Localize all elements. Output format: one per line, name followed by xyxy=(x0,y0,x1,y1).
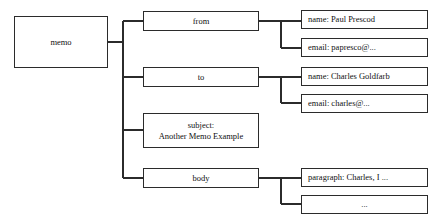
node-from-email-label: email: papresco@... xyxy=(308,42,376,53)
node-body-paragraph-label: paragraph: Charles, I ... xyxy=(308,172,388,183)
node-body-label: body xyxy=(193,173,210,184)
node-memo-label: memo xyxy=(50,37,71,48)
node-from-label: from xyxy=(193,16,210,27)
node-body-paragraph[interactable]: paragraph: Charles, I ... xyxy=(301,168,428,187)
node-subject[interactable]: subject: Another Memo Example xyxy=(143,113,259,148)
node-from[interactable]: from xyxy=(143,11,259,31)
node-body-more-label: ... xyxy=(361,199,367,210)
node-body[interactable]: body xyxy=(143,168,259,188)
node-from-name[interactable]: name: Paul Prescod xyxy=(301,10,428,29)
node-subject-label: subject: Another Memo Example xyxy=(159,120,244,141)
node-from-name-label: name: Paul Prescod xyxy=(308,14,375,25)
memo-tree-diagram: memo from name: Paul Prescod email: papr… xyxy=(0,0,440,220)
node-to-email[interactable]: email: charles@... xyxy=(301,94,428,113)
node-to-email-label: email: charles@... xyxy=(308,98,370,109)
node-to-name[interactable]: name: Charles Goldfarb xyxy=(301,67,428,86)
node-to-label: to xyxy=(198,72,205,83)
node-memo[interactable]: memo xyxy=(14,16,108,68)
node-to[interactable]: to xyxy=(143,67,259,87)
node-from-email[interactable]: email: papresco@... xyxy=(301,38,428,57)
node-body-more[interactable]: ... xyxy=(301,195,428,214)
node-to-name-label: name: Charles Goldfarb xyxy=(308,71,390,82)
